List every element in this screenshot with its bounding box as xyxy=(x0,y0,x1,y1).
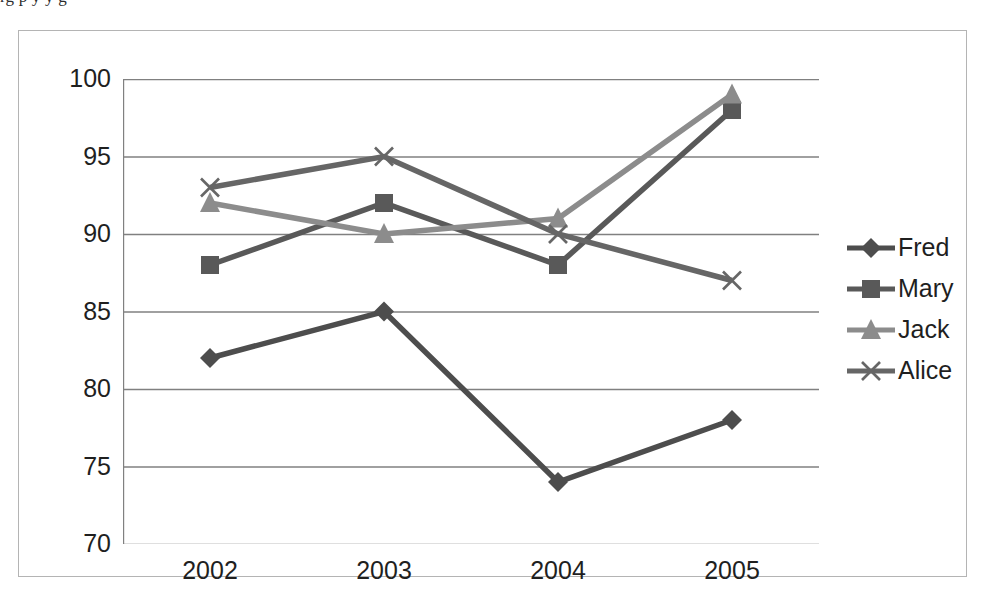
data-point-marker xyxy=(723,101,741,119)
data-point-marker xyxy=(722,84,742,104)
chart-frame: 100959085807570 2002200320042005 FredMar… xyxy=(18,30,967,577)
plot-area xyxy=(123,79,819,544)
data-series-layer xyxy=(200,84,742,493)
data-point-marker xyxy=(375,194,393,212)
gridlines xyxy=(123,80,819,545)
x-tick-label: 2002 xyxy=(182,556,238,585)
x-tick-label: 2005 xyxy=(704,556,760,585)
series-line xyxy=(210,312,732,483)
series-jack xyxy=(200,84,742,244)
series-line xyxy=(210,110,732,265)
legend-marker-triangle-icon xyxy=(845,317,897,343)
data-point-marker xyxy=(862,280,880,298)
x-tick-label: 2004 xyxy=(530,556,586,585)
chart-legend: FredMaryJackAlice xyxy=(845,227,975,391)
y-tick-label: 95 xyxy=(39,144,111,169)
legend-marker-cross-x-icon xyxy=(845,358,897,384)
legend-item-fred[interactable]: Fred xyxy=(845,227,975,268)
series-fred xyxy=(200,302,742,493)
y-tick-label: 90 xyxy=(39,221,111,246)
y-tick-label: 75 xyxy=(39,454,111,479)
data-point-marker xyxy=(722,410,742,430)
data-point-marker xyxy=(200,348,220,368)
y-tick-label: 100 xyxy=(39,66,111,91)
legend-item-jack[interactable]: Jack xyxy=(845,309,975,350)
y-axis-tick-labels: 100959085807570 xyxy=(31,31,111,594)
legend-label: Jack xyxy=(898,317,949,342)
legend-marker-diamond-icon xyxy=(845,235,897,261)
x-axis-tick-labels: 2002200320042005 xyxy=(19,556,993,594)
series-mary xyxy=(201,101,741,274)
data-point-marker xyxy=(861,238,881,258)
y-tick-label: 80 xyxy=(39,376,111,401)
legend-item-alice[interactable]: Alice xyxy=(845,350,975,391)
clipped-header-text: rg p y y g xyxy=(0,0,993,9)
data-point-marker xyxy=(549,256,567,274)
legend-label: Mary xyxy=(898,276,954,301)
legend-label: Alice xyxy=(898,358,952,383)
series-line xyxy=(210,95,732,235)
legend-marker-square-icon xyxy=(845,276,897,302)
data-point-marker xyxy=(201,256,219,274)
legend-label: Fred xyxy=(898,235,949,260)
y-tick-label: 85 xyxy=(39,299,111,324)
legend-item-mary[interactable]: Mary xyxy=(845,268,975,309)
y-tick-label: 70 xyxy=(39,531,111,556)
line-chart-svg xyxy=(123,79,819,544)
x-tick-label: 2003 xyxy=(356,556,412,585)
